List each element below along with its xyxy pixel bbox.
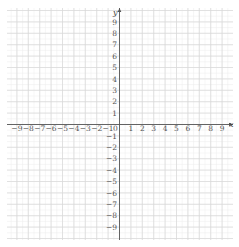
x-tick-label: 6 (186, 124, 191, 133)
y-tick-label: −9 (106, 223, 117, 232)
y-tick-label: −5 (106, 177, 117, 186)
x-tick-label: −5 (57, 124, 68, 133)
x-tick-label: −9 (11, 124, 22, 133)
y-tick-label: 1 (112, 109, 117, 118)
coordinate-plane: −9−8−7−6−5−4−3−2−1123456789 987654321−1−… (0, 0, 239, 247)
x-tick-label: −6 (46, 124, 57, 133)
x-tick-label: −3 (80, 124, 91, 133)
y-tick-label: 3 (112, 86, 117, 95)
x-tick-label: 9 (220, 124, 225, 133)
y-tick-label: 2 (112, 97, 117, 106)
y-axis-arrow-icon (118, 8, 122, 12)
y-tick-label: −2 (106, 143, 117, 152)
x-tick-label: 3 (151, 124, 156, 133)
y-tick-label: −8 (106, 211, 117, 220)
y-tick-label: −6 (106, 189, 117, 198)
y-tick-label: 9 (112, 18, 117, 27)
y-tick-label: 4 (112, 75, 117, 84)
x-tick-labels: −9−8−7−6−5−4−3−2−1123456789 (11, 124, 224, 133)
x-tick-label: 1 (129, 124, 134, 133)
x-tick-label: −8 (23, 124, 34, 133)
x-tick-label: 2 (140, 124, 145, 133)
y-tick-label: 5 (112, 63, 117, 72)
origin-label: 0 (113, 124, 118, 133)
x-tick-label: 7 (197, 124, 202, 133)
x-tick-label: 5 (174, 124, 179, 133)
y-tick-label: 7 (112, 40, 117, 49)
x-axis-label: x (229, 120, 234, 129)
y-tick-label: 8 (112, 29, 117, 38)
y-tick-label: −4 (106, 166, 117, 175)
y-axis-label: y (112, 8, 118, 17)
y-tick-label: −3 (106, 154, 117, 163)
y-tick-label: 6 (112, 52, 117, 61)
x-tick-label: −4 (68, 124, 79, 133)
x-tick-label: −7 (34, 124, 45, 133)
y-tick-label: −7 (106, 200, 117, 209)
x-tick-label: −2 (91, 124, 102, 133)
x-tick-label: 8 (208, 124, 213, 133)
x-tick-label: 4 (163, 124, 168, 133)
